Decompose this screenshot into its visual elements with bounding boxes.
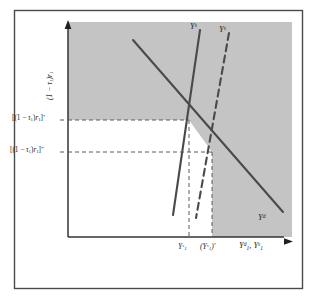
y-axis-title: (1 − τ1)r1 xyxy=(45,72,54,100)
x-axis-arrow xyxy=(284,238,293,244)
x-axis-title: Yd1, Ys1 xyxy=(239,242,263,251)
x-tick-label-left: Ys1 xyxy=(178,243,187,251)
demand-curve-label: Yd xyxy=(258,214,265,223)
white-cutout-region xyxy=(68,120,212,237)
x-tick-label-right: (Ys1)′ xyxy=(200,243,215,251)
figure-container: (1 − τ1)r1 [(1 − τ1)r1]* [(1 − τ1)r1]*′ … xyxy=(0,0,317,299)
supply-curve-label: Ys xyxy=(190,23,197,32)
chart-svg xyxy=(0,0,317,299)
supply-curve-shifted-label: Ys xyxy=(219,26,226,35)
y-tick-label-upper: [(1 − τ1)r1]* xyxy=(12,115,45,123)
y-tick-label-lower: [(1 − τ1)r1]*′ xyxy=(10,147,44,155)
